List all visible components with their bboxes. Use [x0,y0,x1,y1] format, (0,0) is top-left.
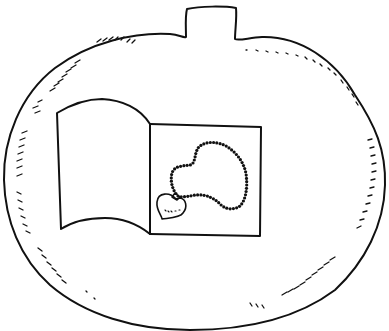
pumpkin-illustration [0,0,389,331]
pumpkin-outline [4,7,385,330]
book-left-page [57,99,150,234]
heart-pendant [157,194,186,219]
coloring-page-canvas: Pumpkin outline with an open book showin… [0,0,389,331]
pendant-bail [172,193,180,200]
shading-hatches [17,37,376,308]
pendant-engraving [165,210,180,212]
necklace-beads [170,141,249,211]
